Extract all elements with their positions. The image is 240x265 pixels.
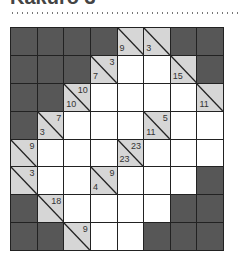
dotted-divider — [10, 12, 238, 14]
kakuro-grid: 9337151010117351192323394189 — [10, 27, 224, 251]
clue-cell: 73 — [38, 112, 64, 139]
down-clue: 10 — [66, 100, 76, 109]
clue-cell: 9 — [64, 223, 90, 250]
across-clue: 9 — [109, 169, 114, 178]
entry-cell[interactable] — [91, 223, 117, 250]
blocked-cell — [11, 223, 37, 250]
entry-cell[interactable] — [91, 112, 117, 139]
entry-cell[interactable] — [38, 167, 64, 194]
entry-cell[interactable] — [118, 223, 144, 250]
blocked-cell — [11, 56, 37, 83]
entry-cell[interactable] — [64, 195, 90, 222]
entry-cell[interactable] — [144, 195, 170, 222]
across-clue: 10 — [78, 86, 88, 95]
down-clue: 11 — [199, 100, 208, 109]
entry-cell[interactable] — [91, 195, 117, 222]
down-clue: 3 — [40, 128, 45, 137]
blocked-cell — [11, 112, 37, 139]
entry-cell[interactable] — [144, 167, 170, 194]
clue-cell: 9 — [11, 140, 37, 167]
across-clue: 23 — [131, 142, 141, 151]
entry-cell[interactable] — [118, 56, 144, 83]
down-clue: 7 — [93, 72, 98, 81]
blocked-cell — [171, 223, 197, 250]
entry-cell[interactable] — [197, 140, 223, 167]
clue-cell: 2323 — [118, 140, 144, 167]
blocked-cell — [197, 167, 223, 194]
across-clue: 5 — [163, 114, 168, 123]
entry-cell[interactable] — [64, 167, 90, 194]
clue-cell: 3 — [144, 28, 170, 55]
across-clue: 7 — [56, 114, 61, 123]
entry-cell[interactable] — [144, 56, 170, 83]
blocked-cell — [171, 195, 197, 222]
blocked-cell — [171, 28, 197, 55]
entry-cell[interactable] — [91, 140, 117, 167]
clue-cell: 18 — [38, 195, 64, 222]
down-clue: 4 — [93, 183, 98, 192]
down-clue: 11 — [146, 128, 155, 137]
entry-cell[interactable] — [197, 112, 223, 139]
entry-cell[interactable] — [64, 140, 90, 167]
blocked-cell — [197, 28, 223, 55]
entry-cell[interactable] — [144, 84, 170, 111]
blocked-cell — [197, 223, 223, 250]
entry-cell[interactable] — [118, 195, 144, 222]
blocked-cell — [144, 223, 170, 250]
entry-cell[interactable] — [118, 167, 144, 194]
entry-cell[interactable] — [171, 84, 197, 111]
across-clue: 3 — [109, 58, 114, 67]
blocked-cell — [38, 84, 64, 111]
entry-cell[interactable] — [118, 84, 144, 111]
down-clue: 15 — [173, 72, 183, 81]
blocked-cell — [197, 56, 223, 83]
blocked-cell — [38, 28, 64, 55]
down-clue: 9 — [120, 44, 125, 53]
entry-cell[interactable] — [38, 140, 64, 167]
across-clue: 9 — [83, 225, 88, 234]
blocked-cell — [11, 195, 37, 222]
blocked-cell — [38, 56, 64, 83]
clue-cell: 11 — [197, 84, 223, 111]
down-clue: 3 — [146, 44, 151, 53]
clue-cell: 37 — [91, 56, 117, 83]
across-clue: 9 — [30, 142, 35, 151]
clue-cell: 9 — [118, 28, 144, 55]
entry-cell[interactable] — [171, 167, 197, 194]
entry-cell[interactable] — [171, 112, 197, 139]
clue-cell: 1010 — [64, 84, 90, 111]
blocked-cell — [11, 84, 37, 111]
down-clue: 23 — [120, 155, 130, 164]
clue-cell: 3 — [11, 167, 37, 194]
blocked-cell — [38, 223, 64, 250]
blocked-cell — [64, 56, 90, 83]
across-clue: 18 — [51, 197, 61, 206]
blocked-cell — [64, 28, 90, 55]
entry-cell[interactable] — [144, 140, 170, 167]
blocked-cell — [197, 195, 223, 222]
blocked-cell — [11, 28, 37, 55]
across-clue: 3 — [30, 169, 35, 178]
entry-cell[interactable] — [64, 112, 90, 139]
entry-cell[interactable] — [171, 140, 197, 167]
clue-cell: 511 — [144, 112, 170, 139]
puzzle-title: Kakuro 3 — [10, 0, 96, 9]
blocked-cell — [91, 28, 117, 55]
entry-cell[interactable] — [118, 112, 144, 139]
clue-cell: 94 — [91, 167, 117, 194]
entry-cell[interactable] — [91, 84, 117, 111]
clue-cell: 15 — [171, 56, 197, 83]
